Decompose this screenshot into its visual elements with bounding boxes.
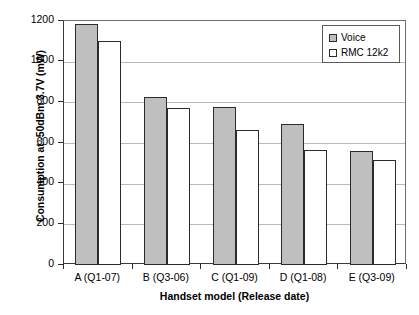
y-tick-label: 1200 [31,13,54,25]
bar-rmc-12k2-d [304,150,327,265]
y-tick-mark [58,20,63,21]
bar-voice-a [75,24,98,265]
bar-voice-c [213,107,236,265]
x-tick-label: A (Q1-07) [63,271,132,283]
x-tick-label: B (Q3-06) [132,271,201,283]
y-tick-label: 400 [36,175,54,187]
bar-voice-d [281,124,304,265]
x-axis-tick [269,264,270,269]
legend-label-rmc: RMC 12k2 [341,47,388,58]
x-axis-tick [200,264,201,269]
legend-item-voice: Voice [329,30,399,45]
y-tick-label: 800 [36,94,54,106]
bar-rmc-12k2-a [98,41,121,265]
y-tick-mark [58,142,63,143]
x-tick-label: D (Q1-08) [269,271,338,283]
y-tick-mark [58,101,63,102]
x-tick-label: C (Q1-09) [200,271,269,283]
bar-voice-b [144,97,167,265]
y-tick-label: 200 [36,216,54,228]
bar-chart: Consumption at -50dBm 3.7V (mW) 02004006… [0,0,419,315]
legend-swatch-icon-rmc [329,49,337,57]
legend: Voice RMC 12k2 [322,25,400,63]
y-tick-label: 600 [36,135,54,147]
bar-rmc-12k2-c [236,130,259,265]
x-tick-label: E (Q3-09) [337,271,406,283]
x-axis-tick [132,264,133,269]
x-axis-title: Handset model (Release date) [63,290,406,302]
y-tick-mark [58,182,63,183]
x-axis-tick [406,264,407,269]
x-axis-tick [63,264,64,269]
legend-label-voice: Voice [341,32,365,43]
bar-rmc-12k2-b [167,108,190,265]
y-tick-mark [58,223,63,224]
bar-rmc-12k2-e [373,160,396,265]
y-tick-label: 1000 [31,53,54,65]
legend-swatch-icon-voice [329,34,337,42]
y-tick-label: 0 [48,257,54,269]
bar-voice-e [350,151,373,265]
legend-item-rmc: RMC 12k2 [329,45,399,60]
y-tick-mark [58,60,63,61]
x-axis-tick [337,264,338,269]
